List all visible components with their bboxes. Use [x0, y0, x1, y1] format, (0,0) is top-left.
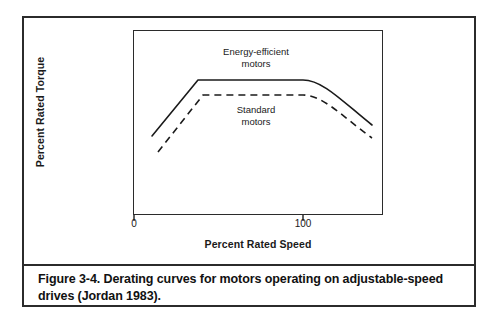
xaxis-tick-label-100: 100	[288, 218, 318, 229]
series-label-energy-efficient: Energy-efficient motors	[196, 46, 316, 70]
series-label-standard-line1: Standard	[237, 104, 276, 115]
series-label-standard-line2: motors	[241, 116, 270, 127]
series-label-standard: Standard motors	[206, 104, 306, 128]
xaxis-title: Percent Rated Speed	[133, 238, 383, 250]
series-label-energy-efficient-line1: Energy-efficient	[223, 46, 289, 57]
yaxis-title: Percent Rated Torque	[34, 42, 46, 182]
figure-root: Energy-efficient motors Standard motors …	[0, 0, 498, 323]
chart-area: Energy-efficient motors Standard motors …	[0, 0, 498, 265]
figure-caption: Figure 3-4. Derating curves for motors o…	[38, 271, 458, 304]
series-label-energy-efficient-line2: motors	[241, 58, 270, 69]
xaxis-tick-label-0: 0	[119, 218, 149, 229]
